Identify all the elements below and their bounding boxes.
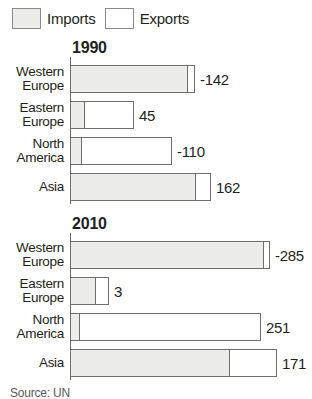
bar-segment-exports xyxy=(84,101,134,129)
row-label: Asia xyxy=(0,169,64,205)
source-note: Source: UN xyxy=(10,386,70,399)
chart-row: EasternEurope3 xyxy=(0,273,312,309)
row-label-line: Eastern xyxy=(20,277,64,292)
bar-value-label: -110 xyxy=(177,133,205,169)
bar-value-label: 171 xyxy=(282,345,306,381)
row-label: WesternEurope xyxy=(0,237,64,273)
stacked-bar xyxy=(70,313,260,341)
bar-segment-exports xyxy=(95,277,109,305)
chart-row: NorthAmerica-110 xyxy=(0,133,312,169)
bar-value-label: -285 xyxy=(275,237,304,273)
chart-row: Asia171 xyxy=(0,345,312,381)
row-label: WesternEurope xyxy=(0,61,64,97)
row-label: NorthAmerica xyxy=(0,133,64,169)
chart-row: Asia162 xyxy=(0,169,312,205)
panel-title-1990: 1990 xyxy=(72,39,107,57)
row-label-line: North xyxy=(32,313,64,328)
chart-legend: Imports Exports xyxy=(12,8,189,29)
legend-label-imports: Imports xyxy=(47,11,96,26)
exports-swatch-icon xyxy=(105,8,134,29)
legend-label-exports: Exports xyxy=(140,11,189,26)
row-label-line: America xyxy=(17,327,64,342)
bar-segment-exports xyxy=(195,173,211,201)
bar-segment-exports xyxy=(187,65,195,93)
chart-rows-2010: WesternEurope-285EasternEurope3NorthAmer… xyxy=(0,237,312,381)
row-label-line: Europe xyxy=(22,115,64,130)
row-label: NorthAmerica xyxy=(0,309,64,345)
bar-value-label: -142 xyxy=(200,61,229,97)
row-label: EasternEurope xyxy=(0,273,64,309)
row-label-line: America xyxy=(17,151,64,166)
bar-segment-imports xyxy=(70,101,85,129)
chart-rows-1990: WesternEurope-142EasternEurope45NorthAme… xyxy=(0,61,312,205)
row-label-line: Europe xyxy=(22,79,64,94)
row-label-line: Europe xyxy=(22,255,64,270)
legend-entry-exports: Exports xyxy=(105,8,189,29)
stacked-bar xyxy=(70,349,276,377)
stacked-bar xyxy=(70,173,210,201)
chart-row: WesternEurope-285 xyxy=(0,237,312,273)
row-label-line: Asia xyxy=(39,356,64,371)
chart-row: NorthAmerica251 xyxy=(0,309,312,345)
chart-row: WesternEurope-142 xyxy=(0,61,312,97)
bar-segment-imports xyxy=(70,241,264,269)
bar-segment-exports xyxy=(263,241,270,269)
zero-axis-2010 xyxy=(70,233,71,380)
stacked-bar xyxy=(70,241,269,269)
stacked-bar xyxy=(70,277,108,305)
bar-value-label: 45 xyxy=(139,97,155,133)
zero-axis-1990 xyxy=(70,57,71,204)
bar-segment-exports xyxy=(79,313,261,341)
panel-title-2010: 2010 xyxy=(72,215,107,233)
row-label: Asia xyxy=(0,345,64,381)
bar-segment-imports xyxy=(70,65,188,93)
row-label-line: Europe xyxy=(22,291,64,306)
bar-value-label: 162 xyxy=(216,169,240,205)
stacked-bar xyxy=(70,101,133,129)
row-label-line: Western xyxy=(16,241,64,256)
bar-value-label: 251 xyxy=(266,309,290,345)
row-label-line: North xyxy=(32,137,64,152)
bar-segment-exports xyxy=(81,137,172,165)
row-label-line: Eastern xyxy=(20,101,64,116)
row-label: EasternEurope xyxy=(0,97,64,133)
bar-value-label: 3 xyxy=(114,273,122,309)
chart-row: EasternEurope45 xyxy=(0,97,312,133)
stacked-bar xyxy=(70,65,194,93)
row-label-line: Western xyxy=(16,65,64,80)
bar-segment-exports xyxy=(229,349,277,377)
row-label-line: Asia xyxy=(39,180,64,195)
bar-segment-imports xyxy=(70,173,196,201)
bar-segment-imports xyxy=(70,277,96,305)
imports-swatch-icon xyxy=(12,8,41,29)
stacked-bar xyxy=(70,137,171,165)
legend-entry-imports: Imports xyxy=(12,8,96,29)
bar-segment-imports xyxy=(70,349,230,377)
